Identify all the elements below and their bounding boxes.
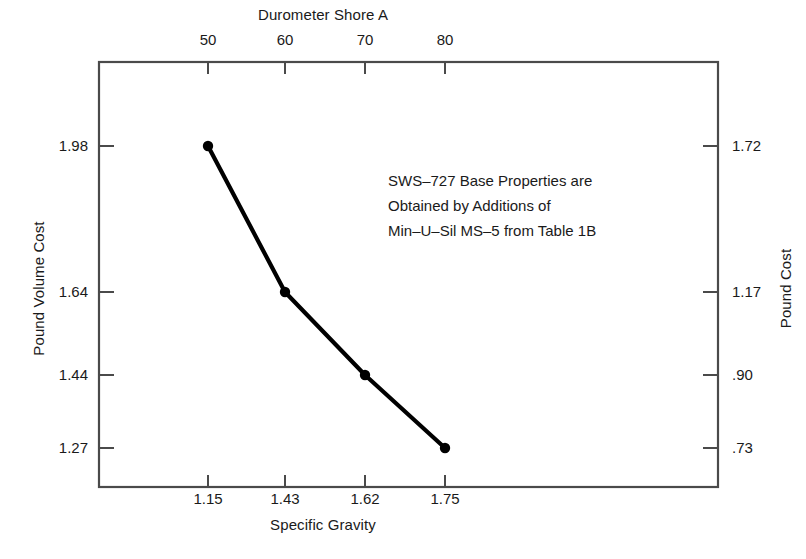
data-point-marker — [360, 370, 370, 380]
bottom-tick-marks — [208, 475, 445, 487]
left-tick-marks — [99, 146, 114, 448]
right-tick-marks — [703, 146, 718, 448]
chart-figure: Durometer Shore A 50 60 70 80 1.98 1.64 … — [0, 0, 806, 559]
top-tick-marks — [208, 62, 445, 74]
data-point-marker — [203, 141, 213, 151]
data-point-marker — [440, 443, 450, 453]
plot-frame — [99, 62, 718, 487]
data-series-line — [208, 146, 445, 448]
plot-area — [0, 0, 806, 559]
data-point-marker — [280, 287, 290, 297]
